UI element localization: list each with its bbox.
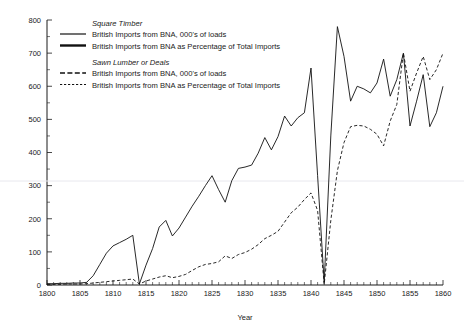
x-tick-label: 1810 — [105, 289, 122, 298]
y-axis: 0100200300400500600700800 — [28, 16, 52, 290]
y-tick-label: 700 — [28, 49, 41, 58]
x-tick-label: 1840 — [303, 289, 320, 298]
x-tick-label: 1820 — [171, 289, 188, 298]
y-tick-label: 100 — [28, 248, 41, 257]
x-tick-label: 1805 — [72, 289, 89, 298]
x-tick-label: 1825 — [204, 289, 221, 298]
y-tick-label: 400 — [28, 148, 41, 157]
legend-entry-label: British Imports from BNA as Percentage o… — [92, 42, 280, 51]
legend-entry-label: British Imports from BNA, 000's of loads — [92, 30, 227, 39]
legend-group-title: Square Timber — [92, 19, 143, 28]
x-axis-title: Year — [237, 313, 253, 322]
y-tick-label: 200 — [28, 215, 41, 224]
legend-entry-label: British Imports from BNA, 000's of loads — [92, 69, 227, 78]
y-tick-label: 800 — [28, 16, 41, 25]
y-tick-label: 600 — [28, 82, 41, 91]
x-axis: 1800180518101815182018251830183518401845… — [39, 280, 452, 298]
legend-entry-label: British Imports from BNA as Percentage o… — [92, 81, 280, 90]
x-tick-label: 1850 — [369, 289, 386, 298]
x-tick-label: 1845 — [336, 289, 353, 298]
line-chart: 0100200300400500600700800 18001805181018… — [0, 0, 464, 330]
chart-figure: 0100200300400500600700800 18001805181018… — [0, 0, 464, 330]
x-tick-label: 1860 — [435, 289, 452, 298]
x-tick-label: 1815 — [138, 289, 155, 298]
legend-group-title: Sawn Lumber or Deals — [92, 58, 169, 67]
x-tick-label: 1800 — [39, 289, 56, 298]
x-tick-label: 1835 — [270, 289, 287, 298]
x-tick-label: 1830 — [237, 289, 254, 298]
x-tick-label: 1855 — [402, 289, 419, 298]
y-tick-label: 300 — [28, 181, 41, 190]
chart-legend: Square TimberBritish Imports from BNA, 0… — [60, 19, 280, 90]
y-tick-label: 500 — [28, 115, 41, 124]
